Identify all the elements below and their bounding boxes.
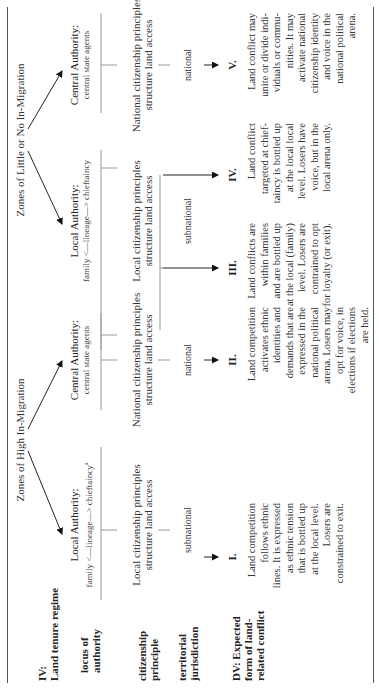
text-line: activates ethnic (259, 307, 272, 419)
local-authority-sub-text: family <—lineage—> chieftaincy (84, 465, 94, 587)
text-line: at the local level. (309, 503, 322, 611)
outcome-text-iv: Land conflict targeted at chief- taincy … (246, 123, 334, 223)
text-line: national political (309, 307, 322, 419)
citizenship-national-low: National citizenship principles structur… (130, 0, 154, 132)
text-line: Land conflict may (246, 13, 259, 116)
arrow-to-central-authority-high (28, 361, 62, 429)
text-line: contrained to opt (309, 223, 322, 323)
text-line: lines. It is expressed (271, 503, 284, 611)
authority-local-high: Local Authority: family <—lineage—> chie… (68, 463, 95, 588)
text-line: national political (334, 13, 347, 116)
text-line: elections if elections (346, 307, 359, 419)
text-line: constrained to exit. (334, 503, 347, 611)
text-line: opt for voice, in (334, 307, 347, 419)
text-line: are held. (359, 307, 372, 419)
central-authority-title: Central Authority: (68, 25, 81, 105)
local-authority-sub: family <—lineage—> chieftaincya (81, 463, 95, 588)
text-line: and voice in the (321, 13, 334, 116)
jurisdiction-national-high: national (182, 344, 193, 376)
outcome-numeral-v: V. (226, 60, 238, 69)
citizenship-local-low: Local citizenship principles structure l… (130, 160, 154, 282)
text-line: arena. (346, 13, 359, 116)
text-line: arena. Losers may (321, 307, 334, 419)
central-authority-sub: central state agents (81, 25, 92, 105)
text-line: expressed in the (296, 307, 309, 419)
citizenship-line2: structure land access (142, 160, 154, 282)
text-line: activate national (296, 13, 309, 116)
text-line: for loyalty (or exit). (321, 223, 334, 323)
arrow-to-local-authority-low (28, 151, 62, 224)
citizenship-line2: structure land access (142, 464, 154, 586)
outcome-text-i: Land competition follows ethnic lines. I… (246, 503, 346, 611)
outcome-numeral-ii: II. (226, 354, 238, 365)
local-authority-title: Local Authority: (68, 160, 81, 282)
outcome-numeral-iii: III. (226, 260, 238, 276)
text-line: voice, but in the (309, 123, 322, 223)
footnote-marker: a (83, 463, 89, 466)
text-line: citizenship identity (309, 13, 322, 116)
text-line: Land conflict (246, 123, 259, 223)
outcome-text-ii: Land competition activates ethnic identi… (246, 307, 371, 419)
arrow-to-central-authority-low (28, 71, 62, 129)
jurisdiction-subnational-high: subnational (182, 507, 193, 553)
text-line: targeted at chief- (259, 123, 272, 223)
text-line: as ethnic tension (284, 503, 297, 611)
citizenship-national-high: National citizenship principles structur… (130, 293, 154, 427)
jurisdiction-national-low: national (182, 49, 193, 81)
text-line: Land competition (246, 307, 259, 419)
text-line: at the local (family) (284, 223, 297, 323)
citizenship-line2: structure land access (142, 0, 154, 132)
authority-central-low: Central Authority: central state agents (68, 25, 92, 105)
text-line: demands that are (284, 307, 297, 419)
local-authority-sub: family <—lineage—> chieftaincy (81, 160, 92, 282)
text-line: level. Losers are (296, 223, 309, 323)
text-line: that is bottled up (296, 503, 309, 611)
text-line: level. Losers have (296, 123, 309, 223)
citizenship-line1: National citizenship principles (130, 0, 142, 132)
text-line: Land conflicts are (246, 223, 259, 323)
text-line: within families (259, 223, 272, 323)
text-line: viduals or commu- (271, 13, 284, 116)
text-line: at the local local (284, 123, 297, 223)
outcome-numeral-iv: IV. (226, 168, 238, 182)
text-line: identities and (271, 307, 284, 419)
central-authority-title: Central Authority: (68, 320, 81, 400)
text-line: follows ethnic (259, 503, 272, 611)
authority-central-high: Central Authority: central state agents (68, 320, 92, 400)
outcome-text-v: Land conflict may unite or divide indi- … (246, 13, 359, 116)
text-line: nities. It may (284, 13, 297, 116)
authority-local-low: Local Authority: family <—lineage—> chie… (68, 160, 92, 282)
citizenship-local-high: Local citizenship principles structure l… (130, 464, 154, 586)
citizenship-line1: National citizenship principles (130, 293, 142, 427)
text-line: taincy is bottled up (271, 123, 284, 223)
text-line: local arena only. (321, 123, 334, 223)
citizenship-line2: structure land access (142, 293, 154, 427)
text-line: unite or divide indi- (259, 13, 272, 116)
outcome-text-iii: Land conflicts are within families and a… (246, 223, 334, 323)
text-line: Losers are (321, 503, 334, 611)
local-authority-title: Local Authority: (68, 463, 81, 588)
outcome-numeral-i: I. (226, 553, 238, 560)
jurisdiction-subnational-low: subnational (182, 198, 193, 244)
text-line: Land competition (246, 503, 259, 611)
citizenship-line1: Local citizenship principles (130, 464, 142, 586)
citizenship-line1: Local citizenship principles (130, 160, 142, 282)
central-authority-sub: central state agents (81, 320, 92, 400)
rotated-table-page: Zones of High In-Migration Zones of Litt… (0, 0, 379, 691)
text-line: and are bottled up (271, 223, 284, 323)
arrow-to-local-authority-high (28, 451, 62, 534)
